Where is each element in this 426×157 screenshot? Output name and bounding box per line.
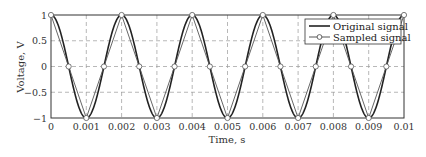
x-axis-ticks: 00.0010.0020.0030.0040.0050.0060.0070.00… [48,121,415,132]
sample-point-marker [366,115,371,120]
sample-point-marker [296,115,301,120]
legend-original-label: Original signal [333,21,408,32]
sample-point-marker [225,115,230,120]
x-tick-label: 0.001 [73,121,100,132]
x-tick-label: 0.002 [108,121,135,132]
x-axis-label: Time, s [209,134,246,145]
sample-point-marker [172,64,177,69]
sample-point-marker [260,12,265,17]
x-tick-label: 0.006 [249,121,276,132]
sample-point-marker [101,64,106,69]
x-tick-label: 0.009 [355,121,382,132]
x-tick-label: 0.008 [320,121,347,132]
sample-point-marker [243,64,248,69]
sample-point-marker [48,12,53,17]
legend: Original signal Sampled signal [305,19,411,44]
y-tick-label: −1 [33,113,47,124]
x-tick-label: 0.004 [179,121,206,132]
sample-point-marker [331,12,336,17]
y-tick-label: −0.5 [24,87,47,98]
legend-sampled-marker [317,35,322,40]
sample-point-marker [66,64,71,69]
x-tick-label: 0.005 [214,121,241,132]
sample-point-marker [207,64,212,69]
sample-point-marker [313,64,318,69]
x-tick-label: 0 [48,121,54,132]
sample-point-marker [401,12,406,17]
y-tick-label: 0 [41,61,47,72]
sample-point-marker [84,115,89,120]
x-tick-label: 0.003 [143,121,170,132]
signal-chart: 00.0010.0020.0030.0040.0050.0060.0070.00… [0,0,426,157]
y-tick-label: 0.5 [32,35,47,46]
sample-point-marker [154,115,159,120]
sample-point-marker [348,64,353,69]
sample-point-marker [119,12,124,17]
y-axis-label: Voltage, V [15,41,26,94]
y-tick-label: 1 [41,10,47,21]
sample-point-marker [384,64,389,69]
legend-sampled-label: Sampled signal [333,32,411,43]
y-axis-ticks: 10.50−0.5−1 [24,10,47,124]
x-tick-label: 0.007 [284,121,311,132]
x-tick-label: 0.01 [393,121,414,132]
sample-point-marker [190,12,195,17]
sample-point-marker [137,64,142,69]
sample-point-marker [278,64,283,69]
